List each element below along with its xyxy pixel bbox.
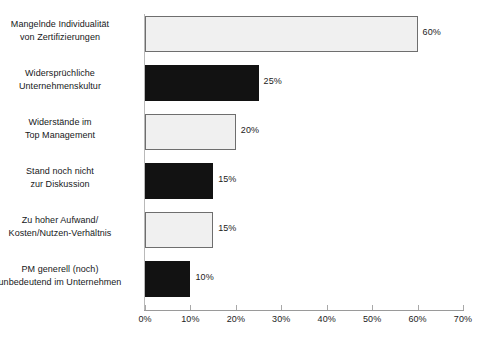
category-label-line2: unbedeutend im Unternehmen xyxy=(0,276,140,289)
x-axis-tick xyxy=(190,305,191,310)
bar[interactable] xyxy=(145,261,190,297)
category-label: WidersprüchlicheUnternehmenskultur xyxy=(0,67,140,93)
bar[interactable] xyxy=(145,65,259,101)
bar[interactable] xyxy=(145,114,236,150)
category-label-line1: Widersprüchliche xyxy=(0,67,140,80)
bar-value-label: 60% xyxy=(423,27,441,37)
category-label-line2: Top Management xyxy=(0,129,140,142)
x-axis-tick-label: 70% xyxy=(454,314,472,324)
bar[interactable] xyxy=(145,163,213,199)
bar-chart: 0%10%20%30%40%50%60%70% Mangelnde Indivi… xyxy=(0,0,491,354)
x-axis-tick xyxy=(418,305,419,310)
category-label: Stand noch nichtzur Diskussion xyxy=(0,165,140,191)
x-axis-line xyxy=(144,310,464,311)
bar-row: PM generell (noch)unbedeutend im Unterne… xyxy=(0,261,491,297)
bar-row: Zu hoher Aufwand/Kosten/Nutzen-Verhältni… xyxy=(0,212,491,248)
category-label-line1: Mangelnde Individualität xyxy=(0,18,140,31)
category-label-line2: Unternehmenskultur xyxy=(0,80,140,93)
bar-row: WidersprüchlicheUnternehmenskultur25% xyxy=(0,65,491,101)
bar[interactable] xyxy=(145,212,213,248)
x-axis-tick xyxy=(281,305,282,310)
bar-value-label: 15% xyxy=(218,174,236,184)
bar-value-label: 10% xyxy=(195,272,213,282)
x-axis-tick-label: 50% xyxy=(363,314,381,324)
bar-value-label: 20% xyxy=(241,125,259,135)
x-axis-tick-label: 40% xyxy=(318,314,336,324)
category-label: Widerstände imTop Management xyxy=(0,116,140,142)
bar-value-label: 15% xyxy=(218,223,236,233)
x-axis-tick xyxy=(145,305,146,310)
category-label: Zu hoher Aufwand/Kosten/Nutzen-Verhältni… xyxy=(0,214,140,240)
x-axis-tick xyxy=(463,305,464,310)
x-axis-tick-label: 60% xyxy=(408,314,426,324)
x-axis-tick-label: 20% xyxy=(227,314,245,324)
plot-area: 0%10%20%30%40%50%60%70% Mangelnde Indivi… xyxy=(0,0,491,354)
category-label-line2: von Zertifizierungen xyxy=(0,31,140,44)
bar-row: Mangelnde Individualitätvon Zertifizieru… xyxy=(0,16,491,52)
bar-row: Stand noch nichtzur Diskussion15% xyxy=(0,163,491,199)
category-label-line1: Widerstände im xyxy=(0,116,140,129)
category-label-line2: Kosten/Nutzen-Verhältnis xyxy=(0,227,140,240)
x-axis-tick xyxy=(236,305,237,310)
category-label-line2: zur Diskussion xyxy=(0,178,140,191)
x-axis-tick xyxy=(327,305,328,310)
x-axis-tick-label: 10% xyxy=(181,314,199,324)
bar-row: Widerstände imTop Management20% xyxy=(0,114,491,150)
x-axis-tick xyxy=(372,305,373,310)
x-axis-tick-label: 0% xyxy=(138,314,151,324)
x-axis-tick-label: 30% xyxy=(272,314,290,324)
bar-value-label: 25% xyxy=(264,76,282,86)
category-label-line1: PM generell (noch) xyxy=(0,263,140,276)
category-label-line1: Stand noch nicht xyxy=(0,165,140,178)
bar[interactable] xyxy=(145,16,418,52)
category-label: PM generell (noch)unbedeutend im Unterne… xyxy=(0,263,140,289)
category-label: Mangelnde Individualitätvon Zertifizieru… xyxy=(0,18,140,44)
category-label-line1: Zu hoher Aufwand/ xyxy=(0,214,140,227)
